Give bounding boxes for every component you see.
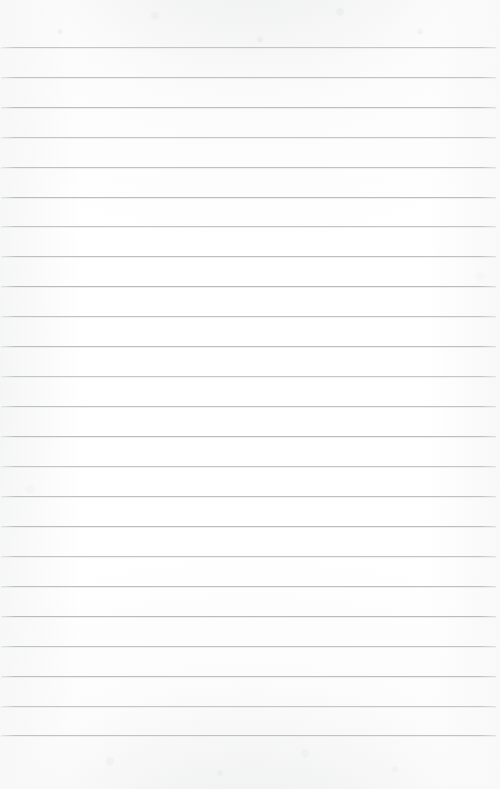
ruled-line bbox=[1, 526, 496, 527]
ruled-line bbox=[1, 286, 496, 287]
ruled-line bbox=[1, 556, 496, 557]
ruled-lines-group bbox=[0, 0, 500, 789]
ruled-line bbox=[1, 346, 496, 347]
ruled-line bbox=[1, 735, 496, 736]
ruled-line bbox=[1, 706, 496, 707]
ruled-line bbox=[1, 167, 496, 168]
ruled-line bbox=[1, 616, 496, 617]
ruled-line bbox=[1, 586, 496, 587]
ruled-line bbox=[1, 107, 496, 108]
ruled-line bbox=[1, 436, 496, 437]
ruled-line bbox=[1, 137, 496, 138]
ruled-line bbox=[1, 376, 496, 377]
ruled-line bbox=[1, 406, 496, 407]
ruled-line bbox=[1, 77, 496, 78]
ruled-line bbox=[1, 466, 496, 467]
ruled-line bbox=[1, 676, 496, 677]
notebook-page bbox=[0, 0, 500, 789]
ruled-line bbox=[1, 197, 496, 198]
ruled-line bbox=[1, 226, 496, 227]
ruled-line bbox=[1, 496, 496, 497]
ruled-line bbox=[1, 47, 496, 48]
ruled-line bbox=[1, 256, 496, 257]
ruled-line bbox=[1, 646, 496, 647]
ruled-line bbox=[1, 316, 496, 317]
